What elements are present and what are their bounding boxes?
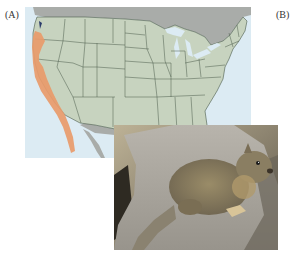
panel-label-a: (A) xyxy=(5,9,19,20)
panel-label-b: (B) xyxy=(276,9,289,20)
squirrel-photo xyxy=(114,125,278,250)
